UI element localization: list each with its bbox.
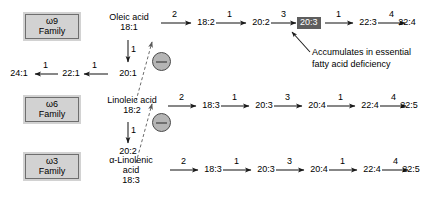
step-label-omega9-3: 3 (281, 9, 286, 19)
step-label-omega3-2: 1 (234, 156, 239, 166)
step-label-omega9-4: 1 (336, 9, 341, 19)
pathway-diagram: ω9 Family ω6 Family ω3 Family (0, 0, 427, 205)
node-oleic-acid: Oleic acid 18:1 (96, 12, 162, 32)
annotation-line-1: Accumulates in essential (312, 47, 411, 59)
family-box-omega9: ω9 Family (22, 11, 82, 42)
step-label-omega9-branch-down: 1 (131, 44, 136, 54)
step-label-omega9-2: 1 (227, 9, 232, 19)
node-linoleic-acid-code: 18:2 (96, 105, 168, 115)
node-oleic-acid-name: Oleic acid (96, 12, 162, 22)
step-label-omega9-branch-left-2: 1 (43, 60, 48, 70)
node-omega6-22-5: 22:5 (396, 100, 422, 110)
step-label-omega6-2: 1 (232, 92, 237, 102)
family-box-omega9-inner: ω9 Family (25, 14, 79, 39)
node-omega3-22-5: 22:5 (398, 164, 424, 174)
node-omega9-22-3: 22:3 (355, 17, 381, 27)
annotation-line-2: fatty acid deficiency (312, 59, 411, 71)
step-label-omega3-3: 3 (287, 156, 292, 166)
node-alpha-linolenic-acid-code: 18:3 (92, 175, 170, 185)
step-label-omega3-1: 2 (181, 156, 186, 166)
inhibition-icon-omega3-on-omega6 (152, 113, 171, 132)
family-box-omega3-inner: ω3 Family (25, 154, 79, 179)
node-omega9-20-2: 20:2 (248, 17, 274, 27)
family-box-omega3: ω3 Family (22, 151, 82, 182)
family-box-omega6-inner: ω6 Family (25, 97, 79, 122)
family-word-label-omega9: Family (39, 27, 66, 36)
step-label-omega6-branch-down: 1 (131, 125, 136, 135)
step-label-omega3-4: 1 (340, 156, 345, 166)
step-label-omega9-branch-left-1: 1 (92, 60, 97, 70)
node-alpha-linolenic-acid: α-Linolenic acid 18:3 (92, 155, 170, 185)
step-label-omega6-4: 1 (338, 92, 343, 102)
node-omega9-24-1: 24:1 (4, 68, 34, 78)
node-omega3-18-3: 18:3 (200, 164, 226, 174)
node-omega3-22-4: 22:4 (359, 164, 385, 174)
node-omega6-22-4: 22:4 (357, 100, 383, 110)
step-label-omega6-1: 2 (179, 92, 184, 102)
node-omega9-22-1: 22:1 (56, 68, 86, 78)
node-linoleic-acid-name: Linoleic acid (96, 95, 168, 105)
node-alpha-linolenic-acid-name-line2: acid (92, 165, 170, 175)
inhibition-icon-omega6-on-omega9 (152, 52, 171, 71)
node-alpha-linolenic-acid-name: α-Linolenic (92, 155, 170, 165)
family-word-label-omega6: Family (39, 110, 66, 119)
node-omega9-20-1: 20:1 (110, 68, 146, 78)
family-word-label-omega3: Family (39, 167, 66, 176)
node-linoleic-acid: Linoleic acid 18:2 (96, 95, 168, 115)
node-omega9-22-4: 22:4 (394, 17, 420, 27)
node-omega9-20-3-highlighted: 20:3 (297, 17, 321, 29)
step-label-omega6-3: 3 (285, 92, 290, 102)
step-label-omega9-1: 2 (172, 9, 177, 19)
node-omega3-20-3: 20:3 (253, 164, 279, 174)
node-omega3-20-4: 20:4 (306, 164, 332, 174)
node-omega6-20-4: 20:4 (304, 100, 330, 110)
node-oleic-acid-code: 18:1 (96, 22, 162, 32)
node-omega9-18-2: 18:2 (193, 17, 219, 27)
family-box-omega6: ω6 Family (22, 94, 82, 125)
annotation-accumulates: Accumulates in essential fatty acid defi… (312, 47, 411, 70)
node-omega6-18-3: 18:3 (198, 100, 224, 110)
node-omega6-20-3: 20:3 (251, 100, 277, 110)
